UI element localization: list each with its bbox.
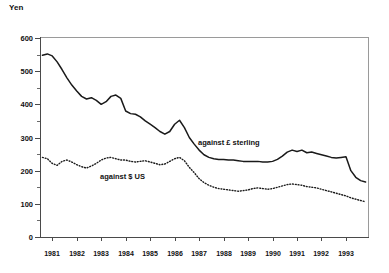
plot-lines	[0, 0, 389, 273]
series-label-sterling: against £ sterling	[198, 138, 260, 147]
series-line-sterling	[42, 54, 365, 182]
series-line-usd	[42, 157, 365, 201]
yen-exchange-rate-chart: Yen 6005004003002001000 1981198219831984…	[0, 0, 389, 273]
series-label-usd: against $ US	[100, 172, 145, 181]
